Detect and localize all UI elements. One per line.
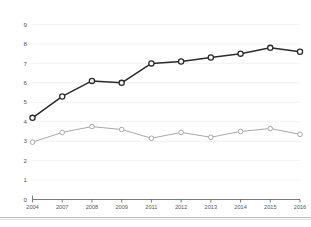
footer-divider-secondary bbox=[0, 219, 311, 220]
data-point-light-series-2004 bbox=[30, 140, 35, 145]
y-axis-tick-label: 8 bbox=[24, 40, 28, 47]
x-axis-tick-label: 2015 bbox=[264, 204, 276, 210]
data-point-light-series-2011 bbox=[149, 136, 154, 141]
data-point-dark-series-2016 bbox=[297, 49, 302, 54]
y-axis-tick-label: 0 bbox=[24, 196, 28, 203]
x-axis-tick-label: 2007 bbox=[56, 204, 68, 210]
y-axis-tick-label: 2 bbox=[24, 157, 28, 164]
series-line-light-series bbox=[33, 127, 301, 143]
x-axis-tick-label: 2004 bbox=[26, 204, 38, 210]
y-axis-tick-label: 3 bbox=[24, 137, 28, 144]
y-axis-tick-label: 5 bbox=[24, 98, 28, 105]
data-point-light-series-2013 bbox=[209, 135, 214, 140]
data-point-light-series-2014 bbox=[238, 129, 243, 134]
data-point-dark-series-2009 bbox=[119, 80, 124, 85]
y-axis-tick-label: 4 bbox=[24, 118, 28, 125]
data-point-light-series-2012 bbox=[179, 130, 184, 135]
data-point-dark-series-2004 bbox=[30, 115, 35, 120]
data-point-light-series-2008 bbox=[90, 124, 95, 129]
x-axis-tick-label: 2012 bbox=[175, 204, 187, 210]
data-point-dark-series-2008 bbox=[89, 78, 94, 83]
data-point-light-series-2007 bbox=[60, 130, 65, 135]
y-axis-tick-label: 1 bbox=[24, 176, 28, 183]
x-axis-tick-label: 2011 bbox=[145, 204, 157, 210]
footer-divider bbox=[0, 217, 311, 218]
x-axis-tick-label: 2013 bbox=[205, 204, 217, 210]
line-chart: 0123456789200420072008200920112012201320… bbox=[0, 0, 311, 227]
chart-plot-area: 0123456789200420072008200920112012201320… bbox=[0, 0, 311, 227]
data-point-light-series-2009 bbox=[119, 127, 124, 132]
data-point-dark-series-2014 bbox=[238, 51, 243, 56]
x-axis-tick-label: 2009 bbox=[115, 204, 127, 210]
y-axis-tick-label: 6 bbox=[24, 79, 28, 86]
data-point-dark-series-2011 bbox=[149, 61, 154, 66]
data-point-light-series-2015 bbox=[268, 126, 273, 131]
data-point-dark-series-2013 bbox=[208, 55, 213, 60]
y-axis-tick-label: 7 bbox=[24, 60, 28, 67]
data-point-dark-series-2012 bbox=[179, 59, 184, 64]
x-axis-tick-label: 2008 bbox=[86, 204, 98, 210]
y-axis-tick-label: 9 bbox=[24, 21, 28, 28]
x-axis-tick-label: 2014 bbox=[234, 204, 246, 210]
x-axis-tick-label: 2016 bbox=[294, 204, 306, 210]
data-point-dark-series-2007 bbox=[60, 94, 65, 99]
data-point-dark-series-2015 bbox=[268, 45, 273, 50]
data-point-light-series-2016 bbox=[298, 132, 303, 137]
